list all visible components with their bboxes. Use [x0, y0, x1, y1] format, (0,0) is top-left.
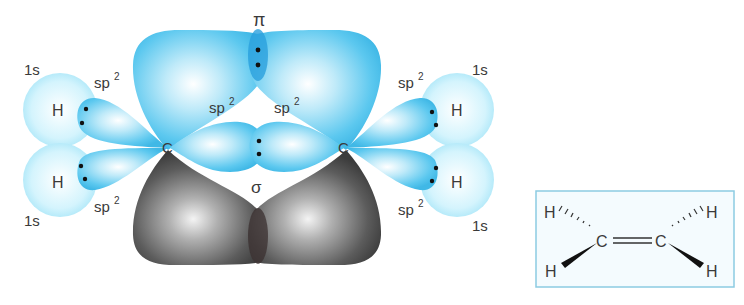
electron-dot	[256, 63, 261, 68]
electron-dot	[80, 121, 84, 125]
sp2-label-text: sp	[94, 198, 110, 215]
left-hydrogen-orbitals	[23, 73, 97, 217]
ethene-orbital-diagram: π σ C C H H H H 1s 1s 1s 1s sp 2 sp 2 sp…	[0, 0, 744, 305]
sigma-bond-label: σ	[251, 178, 262, 197]
electron-dot	[256, 48, 261, 53]
structure-h-top-left: H	[544, 204, 556, 221]
sp2-label-superscript: 2	[294, 96, 300, 107]
structure-h-bottom-left: H	[545, 263, 557, 280]
electron-dot	[430, 179, 434, 183]
structure-box-frame	[536, 191, 734, 287]
right-hydrogen-orbitals	[420, 73, 494, 217]
structure-c-left: C	[596, 233, 608, 250]
sp2-label-text: sp	[398, 201, 414, 218]
structure-h-bottom-right: H	[706, 263, 718, 280]
sp2-label-text: sp	[274, 99, 290, 116]
1s-label-lower-left: 1s	[24, 212, 40, 229]
sp2-label-superscript: 2	[114, 71, 120, 82]
electron-dot	[434, 123, 438, 127]
hydrogen-lower-right-label: H	[451, 174, 463, 191]
carbon-left-label: C	[162, 139, 173, 156]
carbon-right-label: C	[338, 139, 349, 156]
electron-dot	[257, 139, 262, 144]
sp2-label-text: sp	[398, 74, 414, 91]
sp2-label-superscript: 2	[418, 198, 424, 209]
structure-c-right: C	[655, 233, 667, 250]
1s-label-upper-left: 1s	[24, 61, 40, 78]
sp2-label-sigma-left: sp 2	[209, 96, 235, 116]
1s-label-upper-right: 1s	[472, 61, 488, 78]
pi-lower-overlap	[248, 208, 268, 264]
electron-dot	[84, 107, 88, 111]
hydrogen-upper-left-label: H	[52, 102, 64, 119]
pi-upper-overlap	[248, 29, 268, 81]
structure-h-top-right: H	[706, 204, 718, 221]
hydrogen-lower-left-label: H	[52, 174, 64, 191]
sp2-label-upper-right: sp 2	[398, 71, 424, 91]
sp2-label-superscript: 2	[418, 71, 424, 82]
sp2-label-superscript: 2	[114, 195, 120, 206]
hydrogen-upper-right-label: H	[451, 102, 463, 119]
1s-label-lower-right: 1s	[472, 217, 488, 234]
electron-dot	[430, 110, 434, 114]
pi-lower-lobes	[133, 150, 381, 265]
sp2-label-text: sp	[94, 74, 110, 91]
pi-bond-label: π	[253, 10, 265, 30]
electron-dot	[79, 164, 83, 168]
sp2-label-text: sp	[209, 99, 225, 116]
sp2-label-lower-right: sp 2	[398, 198, 424, 218]
electron-dot	[434, 166, 438, 170]
electron-dot	[83, 177, 87, 181]
ethene-structure-box: H H H H C C	[536, 191, 734, 287]
electron-dot	[257, 152, 262, 157]
sp2-label-superscript: 2	[229, 96, 235, 107]
sp2-label-lower-left: sp 2	[94, 195, 120, 215]
sp2-label-upper-left: sp 2	[94, 71, 120, 91]
